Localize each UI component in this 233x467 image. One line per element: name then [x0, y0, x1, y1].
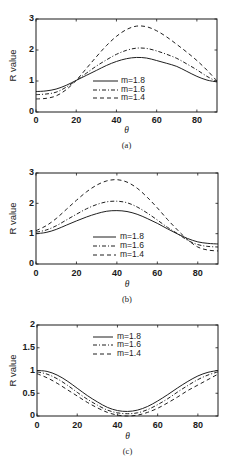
x-axis-label: θ [125, 279, 130, 289]
legend-label: m=1.4 [117, 348, 141, 358]
figure: 0204060800123R valueθ(a)m=1.8m=1.6m=1.4 … [0, 0, 233, 467]
x-tick-label: 80 [193, 268, 203, 278]
panel-caption: (b) [122, 294, 132, 304]
y-tick-label: 3 [29, 167, 34, 177]
panel-caption: (a) [122, 140, 132, 150]
y-axis-label: R value [7, 354, 18, 386]
y-axis-label: R value [7, 49, 18, 81]
y-tick-label: 0 [29, 106, 34, 116]
x-tick-label: 20 [71, 268, 81, 278]
x-tick-label: 0 [34, 420, 39, 430]
x-tick-label: 0 [33, 115, 38, 125]
x-tick-label: 40 [112, 420, 122, 430]
y-tick-label: 1.5 [22, 342, 35, 352]
x-tick-label: 60 [153, 420, 163, 430]
x-tick-label: 60 [152, 115, 162, 125]
panel-caption: (c) [123, 446, 133, 456]
y-tick-label: 1 [29, 75, 34, 85]
y-tick-label: 2 [30, 319, 35, 329]
x-axis-label: θ [125, 431, 130, 441]
x-tick-label: 40 [111, 115, 121, 125]
x-tick-label: 0 [33, 268, 38, 278]
legend-label: m=1.4 [120, 249, 144, 259]
x-tick-label: 80 [193, 420, 203, 430]
y-tick-label: 2 [29, 198, 34, 208]
x-tick-label: 20 [71, 115, 81, 125]
y-tick-label: 3 [29, 13, 34, 23]
y-tick-label: 1 [29, 228, 34, 238]
y-tick-label: 0 [30, 410, 35, 420]
x-axis-label: θ [124, 125, 129, 135]
x-tick-label: 60 [152, 268, 162, 278]
y-axis-label: R value [7, 202, 18, 234]
x-tick-label: 20 [72, 420, 82, 430]
y-tick-label: 2 [29, 44, 34, 54]
y-tick-label: 0.5 [22, 388, 35, 398]
y-tick-label: 0 [29, 258, 34, 268]
legend-label: m=1.4 [121, 92, 145, 102]
x-tick-label: 40 [112, 268, 122, 278]
y-tick-label: 1 [30, 365, 35, 375]
x-tick-label: 80 [192, 115, 202, 125]
